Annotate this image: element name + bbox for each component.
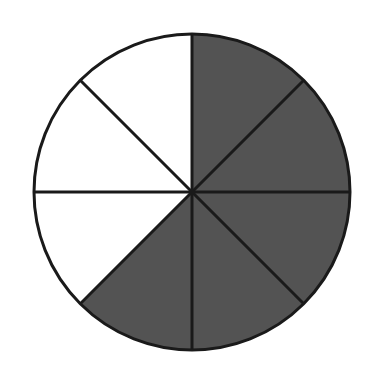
fraction-circle-figure: Circle divided into eight equal sectors …	[0, 0, 373, 373]
fraction-circle-diagram	[0, 0, 373, 373]
divider-group	[34, 34, 350, 350]
